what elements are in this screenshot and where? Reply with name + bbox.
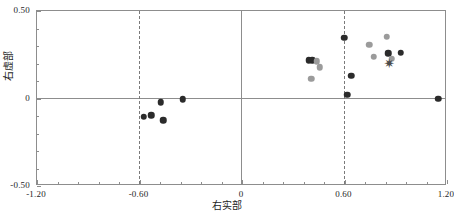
y-minor-tick	[37, 81, 39, 82]
data-point	[158, 99, 165, 106]
x-minor-tick	[406, 182, 407, 184]
data-point	[341, 34, 348, 41]
x-minor-tick	[304, 182, 305, 184]
x-tick-label: 0	[239, 190, 244, 199]
x-minor-tick	[181, 182, 182, 184]
data-point	[141, 114, 148, 121]
y-minor-tick	[37, 46, 39, 47]
x-minor-tick	[427, 182, 428, 184]
x-tick-label: 0.60	[335, 190, 352, 199]
x-minor-tick	[119, 182, 120, 184]
x-minor-tick	[386, 182, 387, 184]
y-minor-tick	[37, 64, 39, 65]
data-point	[384, 34, 391, 41]
zero-line-vertical	[241, 11, 242, 184]
x-minor-tick	[99, 182, 100, 184]
x-minor-tick	[201, 182, 202, 184]
data-point	[344, 91, 351, 98]
x-tick	[140, 180, 141, 184]
data-point	[148, 112, 155, 119]
data-point	[398, 49, 405, 56]
y-tick-label: 0.50	[0, 6, 30, 15]
x-minor-tick	[365, 182, 366, 184]
data-point	[179, 96, 186, 103]
y-tick-label: -0.50	[0, 181, 30, 190]
x-minor-tick	[263, 182, 264, 184]
x-tick-label: 1.20	[438, 190, 454, 199]
y-minor-tick	[37, 116, 39, 117]
data-point	[435, 96, 442, 103]
data-point	[316, 64, 323, 71]
x-tick	[447, 180, 448, 184]
x-minor-tick	[324, 182, 325, 184]
data-point	[370, 54, 377, 61]
y-axis-title: 右虚部	[3, 31, 14, 101]
y-minor-tick	[37, 151, 39, 152]
x-minor-tick	[283, 182, 284, 184]
x-minor-tick	[222, 182, 223, 184]
plot-area: ✷	[36, 10, 446, 185]
x-axis-title: 右实部	[0, 200, 453, 211]
y-tick	[37, 11, 41, 12]
y-minor-tick	[37, 29, 39, 30]
y-minor-tick	[37, 169, 39, 170]
y-tick	[37, 99, 41, 100]
data-point	[308, 76, 315, 83]
x-tick	[345, 180, 346, 184]
data-point-star: ✷	[384, 56, 395, 69]
data-point	[160, 117, 167, 124]
y-minor-tick	[37, 134, 39, 135]
x-tick	[242, 180, 243, 184]
x-tick-label: -1.20	[26, 190, 46, 199]
data-point	[348, 73, 355, 80]
y-tick	[37, 186, 41, 187]
x-minor-tick	[78, 182, 79, 184]
x-tick-label: -0.60	[129, 190, 149, 199]
x-tick	[37, 180, 38, 184]
data-point	[366, 41, 373, 48]
reference-line-neg060	[139, 11, 140, 184]
x-minor-tick	[160, 182, 161, 184]
x-minor-tick	[58, 182, 59, 184]
